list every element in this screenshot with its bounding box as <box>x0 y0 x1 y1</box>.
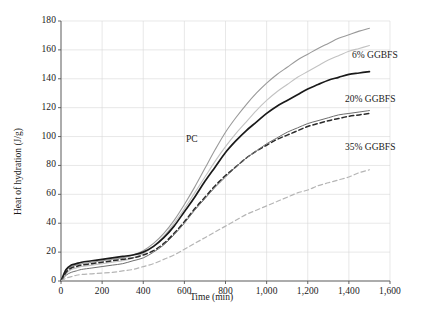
series-line <box>61 46 369 281</box>
y-tick-label: 120 <box>20 102 56 112</box>
y-tick-label: 180 <box>20 15 56 25</box>
chart-series-lines <box>61 28 369 281</box>
series-annotation-label: 6% GGBFS <box>352 50 398 60</box>
y-tick-label: 60 <box>20 188 56 198</box>
chart-plot-svg <box>0 0 423 315</box>
y-tick-label: 140 <box>20 73 56 83</box>
series-annotation-label: 35% GGBFS <box>345 142 395 152</box>
series-annotation-label: PC <box>186 134 198 144</box>
y-tick-label: 100 <box>20 131 56 141</box>
y-tick-label: 20 <box>20 246 56 256</box>
series-line <box>61 28 369 281</box>
series-annotation-label: 20% GGBFS <box>345 94 395 104</box>
series-line <box>61 113 369 281</box>
y-tick-label: 80 <box>20 159 56 169</box>
x-axis-title: Time (min) <box>0 292 423 302</box>
y-tick-label: 160 <box>20 44 56 54</box>
chart-tick-marks <box>58 21 390 284</box>
y-tick-label: 40 <box>20 217 56 227</box>
series-line <box>61 72 369 281</box>
series-line <box>61 111 369 281</box>
hydration-chart-figure: 020406080100120140160180 02004006008001,… <box>0 0 423 315</box>
y-axis-title: Heat of hydration (J/g) <box>13 128 23 215</box>
y-tick-label: 0 <box>20 275 56 285</box>
chart-gridlines <box>61 21 390 281</box>
